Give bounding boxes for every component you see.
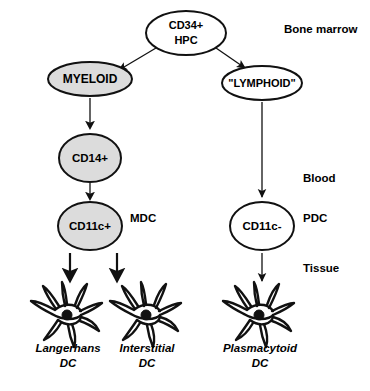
node-cd14[interactable]: CD14+ bbox=[59, 134, 121, 182]
figure-canvas: CD34+ HPC MYELOID "LYMPHOID" Bone marrow… bbox=[0, 0, 370, 391]
arrow-hpc-to-lymphoid bbox=[216, 48, 245, 68]
node-cd11c-negative[interactable]: CD11c- bbox=[230, 202, 294, 250]
annotation-pdc: PDC bbox=[303, 212, 327, 224]
langerhans-label-line2: DC bbox=[60, 357, 77, 369]
plasmacytoid-label-line1: Plasmacytoid bbox=[223, 342, 298, 354]
dendritic-cell-lineage-diagram: CD34+ HPC MYELOID "LYMPHOID" Bone marrow… bbox=[0, 0, 370, 391]
langerhans-cell-icon bbox=[31, 282, 102, 347]
arrow-hpc-to-myeloid bbox=[119, 48, 156, 70]
node-myeloid[interactable]: MYELOID bbox=[48, 62, 132, 96]
cd14-label: CD14+ bbox=[72, 152, 108, 164]
dendritic-cell-plasmacytoid[interactable]: Plasmacytoid DC bbox=[223, 282, 298, 369]
myeloid-label: MYELOID bbox=[63, 72, 118, 86]
cd34-hpc-label-line1: CD34+ bbox=[169, 19, 204, 31]
cd11c-pos-label: CD11c+ bbox=[69, 220, 111, 232]
compartment-label-blood: Blood bbox=[303, 172, 336, 184]
lymphoid-label: "LYMPHOID" bbox=[228, 77, 295, 89]
cd34-hpc-label-line2: HPC bbox=[174, 34, 197, 46]
dendritic-cell-interstitial[interactable]: Interstitial DC bbox=[110, 282, 181, 369]
interstitial-label-line2: DC bbox=[139, 357, 156, 369]
node-lymphoid[interactable]: "LYMPHOID" bbox=[222, 66, 302, 100]
node-cd34-hpc[interactable]: CD34+ HPC bbox=[146, 11, 226, 55]
interstitial-cell-icon bbox=[110, 282, 181, 347]
interstitial-label-line1: Interstitial bbox=[120, 342, 176, 354]
compartment-label-tissue: Tissue bbox=[303, 262, 339, 274]
node-cd11c-positive[interactable]: CD11c+ bbox=[58, 202, 122, 250]
langerhans-label-line1: Langerhans bbox=[35, 342, 100, 354]
annotation-mdc: MDC bbox=[130, 212, 156, 224]
plasmacytoid-label-line2: DC bbox=[252, 357, 269, 369]
compartment-label-bone-marrow: Bone marrow bbox=[284, 23, 358, 35]
plasmacytoid-cell-icon bbox=[223, 282, 294, 347]
dendritic-cell-langerhans[interactable]: Langerhans DC bbox=[31, 282, 102, 369]
cd11c-neg-label: CD11c- bbox=[243, 220, 282, 232]
